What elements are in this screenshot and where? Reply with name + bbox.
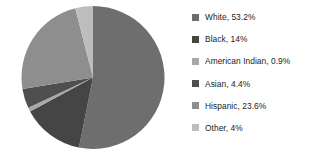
legend-label-other: Other, 4% (205, 123, 243, 133)
legend-label-asian: Asian, 4.4% (205, 79, 250, 89)
legend-swatch-american-indian (192, 58, 199, 65)
pie-slice-group (22, 6, 165, 149)
legend-swatch-other (192, 124, 199, 131)
legend-label-white: White, 53.2% (205, 12, 255, 22)
legend-swatch-black (192, 36, 199, 43)
legend-item-asian[interactable]: Asian, 4.4% (192, 77, 325, 91)
legend-item-other[interactable]: Other, 4% (192, 121, 325, 135)
legend-item-white[interactable]: White, 53.2% (192, 10, 325, 24)
legend-swatch-asian (192, 80, 199, 87)
legend-label-hispanic: Hispanic, 23.6% (205, 101, 266, 111)
legend-item-american-indian[interactable]: American Indian, 0.9% (192, 54, 325, 68)
pie-chart-plot-area (21, 5, 165, 150)
legend-item-black[interactable]: Black, 14% (192, 32, 325, 46)
legend-label-black: Black, 14% (205, 34, 247, 44)
chart-legend: White, 53.2% Black, 14% American Indian,… (192, 10, 325, 143)
legend-swatch-white (192, 14, 199, 21)
pie-chart-figure: White, 53.2% Black, 14% American Indian,… (0, 0, 325, 160)
pie-chart-svg (21, 5, 165, 150)
legend-swatch-hispanic (192, 102, 199, 109)
legend-item-hispanic[interactable]: Hispanic, 23.6% (192, 99, 325, 113)
legend-label-american-indian: American Indian, 0.9% (205, 56, 290, 66)
